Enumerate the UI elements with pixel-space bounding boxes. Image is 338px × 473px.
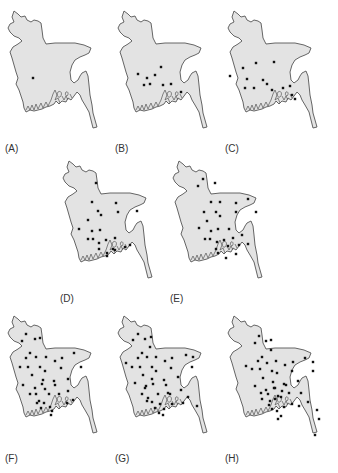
location-dot <box>21 340 23 342</box>
location-dot <box>245 365 247 367</box>
location-dot <box>265 340 267 342</box>
location-dot <box>192 356 194 358</box>
location-dot <box>196 405 198 407</box>
bangladesh-map <box>0 305 112 445</box>
location-dot <box>170 83 172 85</box>
location-dot <box>312 370 314 372</box>
location-dot <box>165 384 167 386</box>
location-dot <box>131 366 133 368</box>
location-dot <box>162 414 164 416</box>
location-dot <box>223 239 225 241</box>
location-dot <box>58 393 60 395</box>
location-dot <box>260 392 262 394</box>
location-dot <box>87 238 89 240</box>
location-dot <box>72 399 74 401</box>
location-dot <box>35 393 37 395</box>
location-dot <box>271 370 273 372</box>
location-dot <box>162 84 164 86</box>
location-dot <box>146 400 148 402</box>
location-dot <box>36 402 38 404</box>
location-dot <box>53 380 55 382</box>
location-dot <box>280 396 282 398</box>
location-dot <box>266 83 268 85</box>
location-dots <box>32 77 34 79</box>
location-dot <box>99 229 101 231</box>
location-dot <box>49 406 51 408</box>
location-dot <box>312 361 314 363</box>
location-dot <box>216 241 218 243</box>
location-dot <box>253 87 255 89</box>
location-dot <box>66 402 68 404</box>
location-dot <box>314 434 316 436</box>
location-dot <box>163 379 165 381</box>
panel-label: (F) <box>5 453 18 464</box>
location-dot <box>270 349 272 351</box>
location-dot <box>241 234 243 236</box>
bangladesh-map <box>55 150 167 290</box>
location-dot <box>265 389 267 391</box>
location-dot <box>155 356 157 358</box>
location-dot <box>170 367 172 369</box>
location-dot <box>292 361 294 363</box>
location-dot <box>22 384 24 386</box>
location-dot <box>235 253 237 255</box>
location-dot <box>34 338 36 340</box>
location-dot <box>217 252 219 254</box>
country-outline <box>228 11 317 128</box>
location-dot <box>114 237 116 239</box>
location-dot <box>272 381 274 383</box>
location-dot <box>151 378 153 380</box>
location-dot <box>54 384 56 386</box>
location-dot <box>276 372 278 374</box>
panel-label: (G) <box>115 453 129 464</box>
map-panel-a: (A) <box>0 0 112 160</box>
location-dot <box>215 211 217 213</box>
location-dot <box>297 380 299 382</box>
location-dot <box>134 382 136 384</box>
panel-label: (A) <box>5 143 18 154</box>
location-dot <box>197 185 199 187</box>
location-dot <box>143 84 145 86</box>
location-dot <box>92 238 94 240</box>
location-dot <box>210 230 212 232</box>
location-dot <box>284 364 286 366</box>
location-dot <box>171 357 173 359</box>
location-dot <box>300 392 302 394</box>
location-dot <box>152 383 154 385</box>
location-dot <box>269 400 271 402</box>
location-dot <box>251 368 253 370</box>
location-dot <box>78 228 80 230</box>
location-dot <box>44 388 46 390</box>
location-dot <box>182 402 184 404</box>
location-dot <box>254 385 256 387</box>
location-dot <box>139 366 141 368</box>
location-dot <box>283 406 285 408</box>
bangladesh-map <box>0 0 112 140</box>
location-dot <box>51 410 53 412</box>
location-dot <box>271 408 273 410</box>
location-dot <box>277 418 279 420</box>
location-dot <box>225 257 227 259</box>
location-dot <box>257 360 259 362</box>
location-dot <box>105 239 107 241</box>
bangladesh-map <box>110 305 222 445</box>
location-dot <box>247 198 249 200</box>
location-dot <box>48 393 50 395</box>
location-dot <box>304 357 306 359</box>
location-dot <box>155 370 157 372</box>
location-dot <box>35 356 37 358</box>
location-dot <box>171 403 173 405</box>
location-dot <box>282 87 284 89</box>
location-dot <box>242 67 244 69</box>
location-dot <box>142 374 144 376</box>
location-dot <box>91 230 93 232</box>
location-dot <box>39 366 41 368</box>
location-dot <box>98 248 100 250</box>
location-dot <box>270 339 272 341</box>
location-dot <box>100 214 102 216</box>
location-dot <box>255 211 257 213</box>
location-dot <box>210 201 212 203</box>
location-dot <box>219 215 221 217</box>
location-dot <box>19 366 21 368</box>
location-dot <box>276 410 278 412</box>
